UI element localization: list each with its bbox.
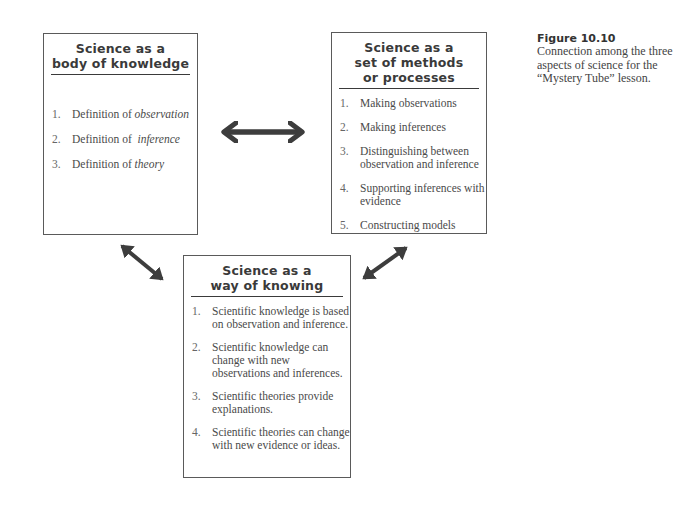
- list-item: 2. Making inferences: [340, 121, 486, 134]
- box-way-of-knowing: Science as a way of knowing 1. Scientifi…: [183, 255, 351, 478]
- item-number: 2.: [52, 133, 72, 146]
- title-line: set of methods: [339, 55, 479, 70]
- box-methods-or-processes: Science as a set of methods or processes…: [331, 32, 487, 234]
- item-text: Scientific knowledge can change with new…: [212, 341, 350, 380]
- item-number: 2.: [192, 341, 212, 380]
- title-line: Science as a: [339, 40, 479, 55]
- item-text: Making observations: [360, 97, 457, 110]
- item-text: Definition of theory: [72, 158, 164, 171]
- list-item: 1. Scientific knowledge is based on obse…: [192, 305, 350, 331]
- item-number: 3.: [52, 158, 72, 171]
- title-line: Science as a: [51, 41, 190, 56]
- item-list: 1. Definition of observation 2. Definiti…: [52, 108, 197, 171]
- item-text: Scientific theories can change with new …: [212, 426, 350, 452]
- item-list: 1. Making observations 2. Making inferen…: [340, 97, 486, 232]
- item-number: 1.: [52, 108, 72, 121]
- box-title: Science as a set of methods or processes: [339, 33, 479, 89]
- box-title: Science as a way of knowing: [191, 256, 343, 297]
- list-item: 2. Scientific knowledge can change with …: [192, 341, 350, 380]
- list-item: 2. Definition of inference: [52, 133, 197, 146]
- item-number: 1.: [340, 97, 360, 110]
- item-number: 4.: [192, 426, 212, 452]
- item-text: Definition of inference: [72, 133, 180, 146]
- double-arrow-methods-knowing: [364, 248, 406, 278]
- item-text: Constructing models: [360, 219, 456, 232]
- item-list: 1. Scientific knowledge is based on obse…: [192, 305, 350, 452]
- item-number: 3.: [192, 390, 212, 416]
- list-item: 3. Distinguishing between observation an…: [340, 145, 486, 171]
- item-term: observation: [135, 108, 189, 120]
- list-item: 3. Scientific theories provide explanati…: [192, 390, 350, 416]
- item-text: Scientific knowledge is based on observa…: [212, 305, 350, 331]
- list-item: 3. Definition of theory: [52, 158, 197, 171]
- list-item: 1. Making observations: [340, 97, 486, 110]
- double-arrow-knowledge-knowing: [122, 246, 162, 279]
- item-text: Making inferences: [360, 121, 446, 134]
- title-line: Science as a: [191, 263, 343, 278]
- item-number: 2.: [340, 121, 360, 134]
- figure-caption-text: Connection among the three aspects of sc…: [537, 45, 677, 86]
- item-text: Scientific theories provide explanations…: [212, 390, 350, 416]
- item-text: Definition of observation: [72, 108, 189, 121]
- title-line: body of knowledge: [51, 56, 190, 71]
- list-item: 1. Definition of observation: [52, 108, 197, 121]
- item-text: Distinguishing between observation and i…: [360, 145, 486, 171]
- item-text: Supporting inferences with evidence: [360, 182, 486, 208]
- box-body-of-knowledge: Science as a body of knowledge 1. Defini…: [43, 33, 198, 235]
- item-number: 1.: [192, 305, 212, 331]
- item-term: theory: [135, 158, 164, 170]
- list-item: 5. Constructing models: [340, 219, 486, 232]
- title-line: or processes: [339, 70, 479, 85]
- item-number: 5.: [340, 219, 360, 232]
- list-item: 4. Scientific theories can change with n…: [192, 426, 350, 452]
- title-line: way of knowing: [191, 278, 343, 293]
- box-title: Science as a body of knowledge: [51, 34, 190, 75]
- figure-caption: Figure 10.10 Connection among the three …: [537, 32, 677, 86]
- item-term: inference: [137, 133, 179, 145]
- item-number: 3.: [340, 145, 360, 171]
- list-item: 4. Supporting inferences with evidence: [340, 182, 486, 208]
- item-number: 4.: [340, 182, 360, 208]
